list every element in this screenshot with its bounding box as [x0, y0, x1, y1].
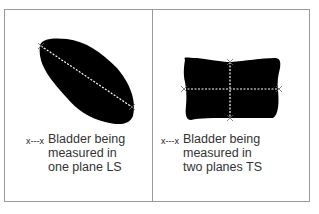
- legend-ts-text: Bladder being measured in two planes TS: [183, 132, 262, 174]
- legend-ls: x---x Bladder being measured in one plan…: [26, 132, 125, 174]
- panel-ts: x---x Bladder being measured in two plan…: [153, 10, 310, 201]
- bladder-ls-shape: [40, 39, 134, 125]
- legend-key-icon: x---x: [161, 134, 179, 148]
- panel-ls: x---x Bladder being measured in one plan…: [5, 10, 152, 201]
- legend-ts: x---x Bladder being measured in two plan…: [161, 132, 262, 174]
- legend-key-icon: x---x: [26, 134, 44, 148]
- legend-ls-text: Bladder being measured in one plane LS: [48, 132, 125, 174]
